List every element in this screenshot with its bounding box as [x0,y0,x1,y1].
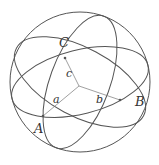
vertex-label-a: A [33,121,43,136]
spherical-triangle-diagram: A B C a b c [0,0,159,165]
great-circles [0,6,159,158]
radius-to-a [43,86,79,116]
great-circle-gc-2 [0,18,159,146]
great-circle-gc-1 [4,34,155,130]
sphere-outline [10,12,150,152]
edge-label-b: b [96,93,103,106]
vertex-label-c: C [59,35,69,50]
vertex-label-b: B [134,94,145,109]
edge-label-c: c [66,67,72,80]
vertex-dot-b [119,99,122,102]
vertex-dot-a [42,115,45,118]
great-circle-gc-3 [28,6,132,158]
vertex-labels: A B C [33,35,145,136]
vertex-dot-c [64,57,67,60]
center-to-vertex-lines [43,58,120,116]
edge-label-a: a [53,93,60,106]
